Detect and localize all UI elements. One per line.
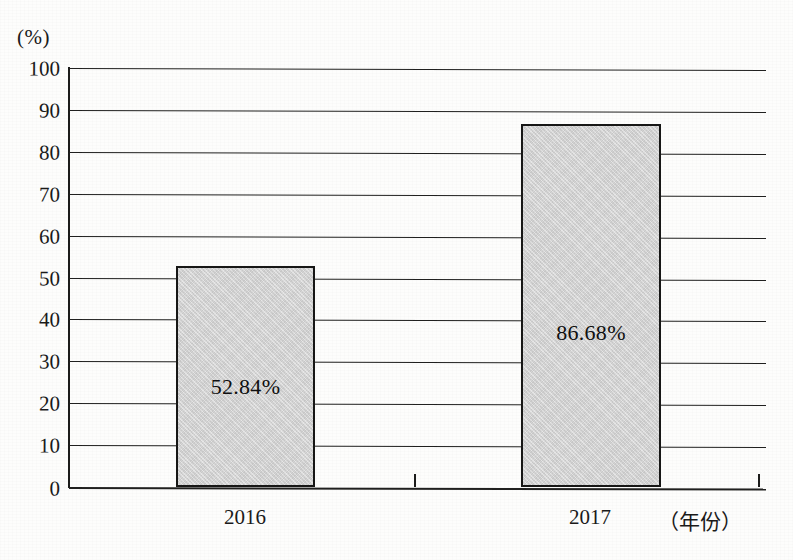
gridline-10: 10 — [69, 445, 766, 448]
y-axis-tick-label-10: 10 — [39, 436, 60, 457]
gridline-70: 70 — [69, 194, 766, 197]
x-axis-tick-mid — [414, 474, 416, 487]
y-axis-tick-label-50: 50 — [39, 268, 60, 289]
y-axis-tick-label-0: 0 — [49, 478, 60, 499]
y-axis-tick-label-90: 90 — [39, 100, 60, 121]
y-axis-unit-label: (%) — [17, 25, 50, 50]
bar-value-label-2017: 86.68% — [523, 320, 659, 346]
x-axis-title: （年份） — [658, 505, 742, 535]
y-axis-tick-label-60: 60 — [39, 226, 60, 247]
y-axis-tick-label-20: 20 — [39, 394, 60, 415]
bar-value-label-2016: 52.84% — [178, 374, 313, 400]
gridline-100: 100 — [69, 68, 766, 71]
bar-2016: 52.84% — [176, 266, 315, 487]
y-axis-tick-label-30: 30 — [39, 352, 60, 373]
bar-2017: 86.68% — [521, 124, 661, 487]
gridline-80: 80 — [69, 152, 766, 155]
y-axis-tick-label-40: 40 — [39, 310, 60, 331]
gridline-60: 60 — [69, 236, 766, 239]
x-axis-category-label-2017: 2017 — [569, 505, 611, 530]
y-axis-tick-label-100: 100 — [28, 58, 60, 79]
chart-figure: (%) 1009080706050403020100 52.84%86.68% … — [0, 0, 793, 560]
gridline-0: 0 — [69, 487, 766, 490]
y-axis-tick-label-70: 70 — [39, 184, 60, 205]
gridline-90: 90 — [69, 110, 766, 113]
plot-area: 1009080706050403020100 52.84%86.68% — [69, 68, 766, 487]
gridline-30: 30 — [69, 361, 766, 364]
x-axis-category-label-2016: 2016 — [224, 505, 266, 530]
y-axis-tick-label-80: 80 — [39, 142, 60, 163]
gridline-40: 40 — [69, 319, 766, 322]
gridline-20: 20 — [69, 403, 766, 406]
gridline-50: 50 — [69, 278, 766, 281]
x-axis-tick-end — [758, 474, 760, 487]
